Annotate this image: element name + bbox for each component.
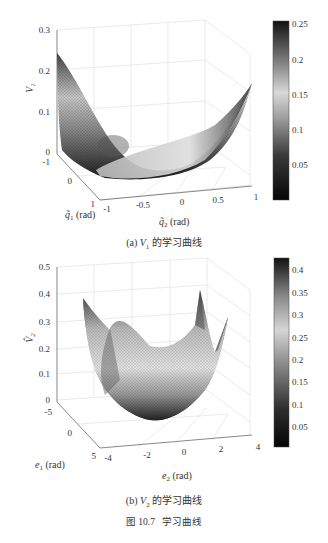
svg-text:0.3: 0.3 bbox=[292, 310, 304, 320]
svg-text:-5: -5 bbox=[45, 407, 53, 417]
plot-a-z-ticks: 0.3 0.2 0.1 0 bbox=[39, 25, 51, 157]
plot-b-z-ticks: 0.5 0.4 0.3 0.2 0.1 0 bbox=[39, 262, 51, 405]
svg-text:-1: -1 bbox=[43, 157, 51, 167]
svg-text:0.35: 0.35 bbox=[292, 288, 308, 298]
plot-b: 0.5 0.4 0.3 0.2 0.1 0 V̂2 -5 0 5 -4 -2 0… bbox=[0, 250, 328, 490]
svg-text:0.05: 0.05 bbox=[292, 160, 308, 170]
svg-text:0.2: 0.2 bbox=[39, 66, 50, 76]
plot-b-surface bbox=[83, 290, 228, 420]
svg-text:0.2: 0.2 bbox=[292, 355, 303, 365]
plot-b-canvas: 0.5 0.4 0.3 0.2 0.1 0 V̂2 -5 0 5 -4 -2 0… bbox=[0, 250, 328, 490]
svg-text:-4: -4 bbox=[104, 453, 112, 463]
svg-text:0.5: 0.5 bbox=[212, 195, 224, 205]
svg-text:0: 0 bbox=[68, 428, 73, 438]
svg-text:0.25: 0.25 bbox=[292, 333, 308, 343]
plot-b-x-ticks: -4 -2 0 2 4 bbox=[104, 442, 261, 463]
plot-a-colorbar-ticks: 0.25 0.2 0.15 0.1 0.05 bbox=[292, 19, 308, 170]
svg-text:0.1: 0.1 bbox=[39, 107, 50, 117]
plot-b-x-label: e2 (rad) bbox=[162, 470, 192, 483]
svg-text:0.15: 0.15 bbox=[292, 90, 308, 100]
svg-text:1: 1 bbox=[91, 199, 96, 209]
svg-text:0.1: 0.1 bbox=[292, 400, 303, 410]
plot-a-colorbar bbox=[273, 21, 289, 200]
svg-text:-1: -1 bbox=[103, 204, 111, 214]
svg-text:0: 0 bbox=[68, 176, 73, 186]
svg-text:0: 0 bbox=[46, 147, 51, 157]
svg-text:-2: -2 bbox=[143, 450, 151, 460]
svg-text:0.1: 0.1 bbox=[292, 125, 303, 135]
plot-a-canvas: 0.3 0.2 0.1 0 V1 -1 0 1 -1 -0.5 0 0.5 1 … bbox=[0, 0, 328, 245]
svg-text:0.2: 0.2 bbox=[292, 55, 303, 65]
svg-text:0.2: 0.2 bbox=[39, 344, 50, 354]
svg-text:0.25: 0.25 bbox=[292, 19, 308, 29]
plot-a-surface bbox=[57, 53, 252, 179]
svg-text:0.3: 0.3 bbox=[39, 25, 51, 35]
svg-text:0.05: 0.05 bbox=[292, 422, 308, 432]
svg-text:0.4: 0.4 bbox=[39, 289, 51, 299]
svg-text:0: 0 bbox=[182, 447, 187, 457]
svg-text:5: 5 bbox=[92, 451, 97, 461]
svg-text:0.4: 0.4 bbox=[292, 265, 304, 275]
plot-b-caption: (b) V2 的学习曲线 bbox=[0, 492, 328, 509]
plot-a-x-ticks: -1 -0.5 0 0.5 1 bbox=[103, 192, 258, 214]
plot-b-colorbar-ticks: 0.4 0.35 0.3 0.25 0.2 0.15 0.1 0.05 bbox=[292, 265, 308, 432]
svg-text:-0.5: -0.5 bbox=[136, 200, 151, 210]
plot-a: 0.3 0.2 0.1 0 V1 -1 0 1 -1 -0.5 0 0.5 1 … bbox=[0, 0, 328, 245]
plot-a-caption: (a) V1 的学习曲线 bbox=[0, 234, 328, 251]
plot-a-z-label: V1 bbox=[24, 83, 37, 93]
svg-text:4: 4 bbox=[256, 442, 261, 452]
plot-b-colorbar bbox=[274, 258, 289, 447]
svg-text:0.15: 0.15 bbox=[292, 377, 308, 387]
svg-text:0: 0 bbox=[180, 197, 185, 207]
figure-caption: 图 10.7 学习曲线 bbox=[0, 514, 328, 528]
plot-a-x-label: q̃2 (rad) bbox=[159, 216, 189, 229]
plot-b-z-label: V̂2 bbox=[23, 333, 37, 343]
svg-text:0.1: 0.1 bbox=[39, 369, 50, 379]
svg-text:0.3: 0.3 bbox=[39, 317, 51, 327]
plot-a-y-label: q̃1 (rad) bbox=[65, 209, 95, 222]
svg-text:1: 1 bbox=[254, 192, 259, 202]
svg-text:0.5: 0.5 bbox=[39, 262, 51, 272]
svg-text:2: 2 bbox=[219, 444, 224, 454]
plot-b-y-label: e1 (rad) bbox=[35, 459, 65, 472]
svg-text:0: 0 bbox=[46, 395, 51, 405]
plot-b-y-ticks: -5 0 5 bbox=[45, 407, 97, 461]
